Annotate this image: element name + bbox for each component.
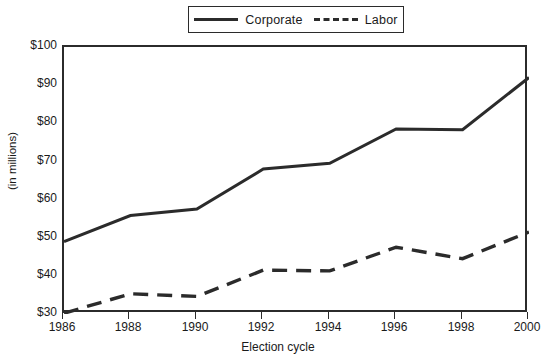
x-tick-label-1992: 1992 — [231, 320, 291, 334]
x-tick-mark-1998 — [461, 312, 462, 319]
x-tick-mark-1990 — [195, 312, 196, 319]
legend-item-labor: Labor — [314, 13, 398, 27]
legend-label-labor: Labor — [365, 13, 398, 27]
y-axis-title: (in millions) — [6, 121, 18, 201]
x-tick-mark-1994 — [328, 312, 329, 319]
line-chart: Corporate Labor $100 $90 $80 $70 $60 $50… — [0, 0, 556, 359]
x-tick-label-1986: 1986 — [32, 320, 92, 334]
x-axis-title: Election cycle — [0, 340, 556, 354]
x-tick-label-1996: 1996 — [364, 320, 424, 334]
x-tick-mark-1996 — [394, 312, 395, 319]
y-tick-label-30: $30 — [9, 306, 57, 318]
y-tick-label-50: $50 — [9, 230, 57, 242]
x-tick-label-1998: 1998 — [431, 320, 491, 334]
series-line-corporate — [64, 78, 529, 242]
chart-legend: Corporate Labor — [188, 6, 404, 33]
legend-label-corporate: Corporate — [245, 13, 302, 27]
x-tick-label-1990: 1990 — [165, 320, 225, 334]
x-tick-label-1988: 1988 — [98, 320, 158, 334]
plot-svg — [64, 47, 529, 314]
dashed-line-swatch-icon — [314, 18, 358, 21]
x-tick-mark-2000 — [527, 312, 528, 319]
x-tick-label-2000: 2000 — [497, 320, 556, 334]
x-tick-label-1994: 1994 — [298, 320, 358, 334]
x-tick-mark-1988 — [128, 312, 129, 319]
series-line-labor — [64, 232, 529, 313]
solid-line-swatch-icon — [194, 18, 238, 21]
plot-area — [62, 45, 527, 312]
y-tick-label-40: $40 — [9, 268, 57, 280]
x-tick-mark-1992 — [261, 312, 262, 319]
x-tick-mark-1986 — [62, 312, 63, 319]
legend-item-corporate: Corporate — [194, 13, 302, 27]
y-tick-label-100: $100 — [9, 39, 57, 51]
y-tick-label-90: $90 — [9, 77, 57, 89]
